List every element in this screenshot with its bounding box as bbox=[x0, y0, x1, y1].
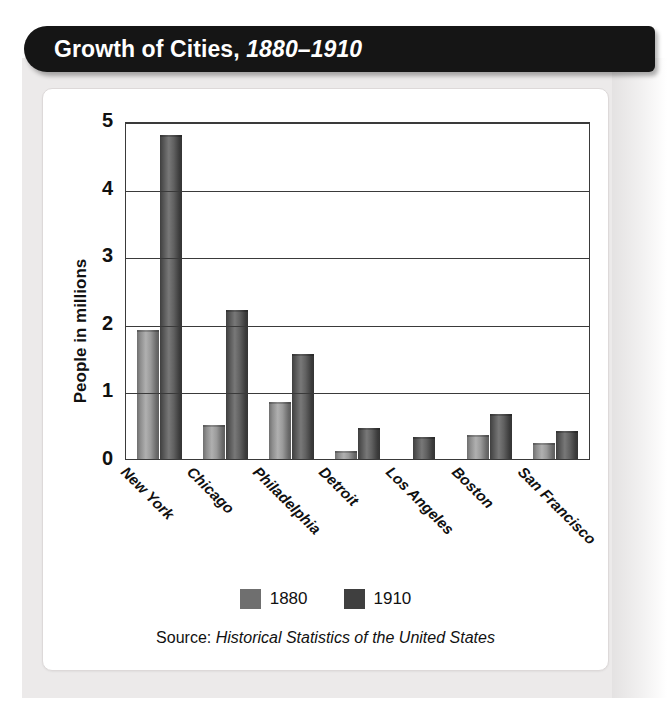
x-tick-label: Boston bbox=[449, 463, 498, 512]
gridline bbox=[126, 191, 589, 192]
bar-group bbox=[391, 123, 457, 459]
legend-label: 1880 bbox=[270, 589, 308, 609]
bar-1910[interactable] bbox=[358, 428, 380, 459]
source-note: Source: Historical Statistics of the Uni… bbox=[43, 629, 608, 647]
bar-1880[interactable] bbox=[335, 451, 357, 459]
y-tick-label: 3 bbox=[73, 244, 113, 267]
bar-group bbox=[523, 123, 589, 459]
legend-item[interactable]: 1910 bbox=[344, 589, 412, 609]
bar-1910[interactable] bbox=[556, 431, 578, 459]
legend-swatch-1910 bbox=[344, 589, 365, 609]
x-axis-category-labels: New YorkChicagoPhiladelphiaDetroitLos An… bbox=[125, 463, 590, 583]
page-title: Growth of Cities, 1880–1910 bbox=[24, 36, 362, 63]
source-prefix: Source: bbox=[156, 629, 216, 646]
bar-1910[interactable] bbox=[490, 414, 512, 459]
chart-card: People in millions 543210 New YorkChicag… bbox=[42, 88, 609, 671]
title-years-text: 1880–1910 bbox=[246, 36, 362, 62]
legend-item[interactable]: 1880 bbox=[240, 589, 308, 609]
y-axis-tick-labels: 543210 bbox=[69, 122, 113, 460]
bar-group bbox=[324, 123, 390, 459]
bar-1910[interactable] bbox=[160, 135, 182, 459]
x-tick-label: Los Angeles bbox=[383, 463, 458, 538]
bar-1880[interactable] bbox=[467, 435, 489, 459]
bar-1880[interactable] bbox=[533, 443, 555, 459]
y-tick-label: 5 bbox=[73, 109, 113, 132]
chart-page: Growth of Cities, 1880–1910 People in mi… bbox=[0, 0, 667, 712]
y-tick-label: 1 bbox=[73, 379, 113, 402]
bar-1880[interactable] bbox=[137, 330, 159, 459]
bar-1910[interactable] bbox=[413, 437, 435, 459]
bar-groups bbox=[126, 123, 589, 459]
chart-legend: 18801910 bbox=[43, 589, 608, 609]
bar-group bbox=[192, 123, 258, 459]
source-publication-title: Historical Statistics of the United Stat… bbox=[216, 629, 495, 646]
title-bar: Growth of Cities, 1880–1910 bbox=[24, 26, 655, 72]
gridline bbox=[126, 258, 589, 259]
legend-label: 1910 bbox=[374, 589, 412, 609]
plot-area bbox=[125, 122, 590, 460]
chart-figure: People in millions 543210 New YorkChicag… bbox=[43, 89, 608, 670]
bar-1880[interactable] bbox=[203, 425, 225, 459]
title-main-text: Growth of Cities, bbox=[54, 36, 240, 62]
gridline bbox=[126, 326, 589, 327]
bar-group bbox=[258, 123, 324, 459]
bar-1880[interactable] bbox=[269, 402, 291, 459]
bar-group bbox=[126, 123, 192, 459]
x-tick-label: Detroit bbox=[316, 463, 362, 509]
y-tick-label: 4 bbox=[73, 177, 113, 200]
gridline bbox=[126, 393, 589, 394]
x-tick-label: New York bbox=[118, 463, 178, 523]
x-tick-label: Philadelphia bbox=[250, 463, 325, 538]
page-background-shade bbox=[612, 58, 667, 698]
y-tick-label: 0 bbox=[73, 447, 113, 470]
bar-1910[interactable] bbox=[226, 310, 248, 459]
x-tick-label: San Francisco bbox=[515, 463, 600, 548]
legend-swatch-1880 bbox=[240, 589, 261, 609]
bar-1910[interactable] bbox=[292, 354, 314, 459]
x-tick-label: Chicago bbox=[184, 463, 238, 517]
gridline bbox=[126, 123, 589, 124]
y-tick-label: 2 bbox=[73, 312, 113, 335]
bar-group bbox=[457, 123, 523, 459]
